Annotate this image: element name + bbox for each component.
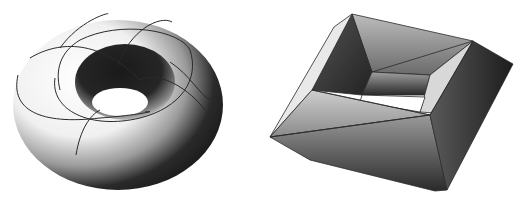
torus-hole — [92, 88, 148, 116]
torus — [13, 14, 223, 190]
render-svg — [0, 0, 526, 201]
square-torus — [270, 14, 513, 191]
figure-canvas: smooth torus with curves polyhedral squa… — [0, 0, 526, 201]
face-inner-back — [362, 72, 430, 95]
